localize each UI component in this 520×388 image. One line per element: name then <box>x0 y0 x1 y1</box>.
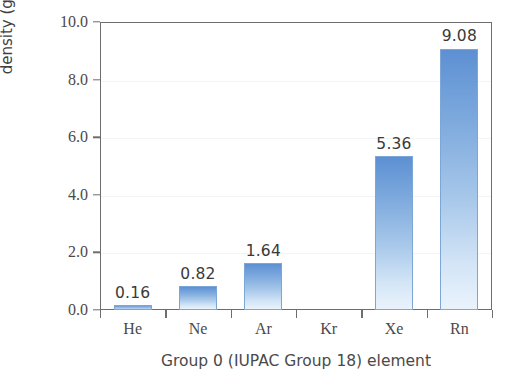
y-tick-label-10.0: 10.0 <box>60 13 88 31</box>
x-tick-label-he: He <box>123 320 142 338</box>
y-tick-label-0.0: 0.0 <box>68 301 88 319</box>
y-tick-mark-2.0 <box>93 252 100 253</box>
y-tick-label-8.0: 8.0 <box>68 71 88 89</box>
value-label-rn: 9.08 <box>427 27 492 45</box>
bar-ne[interactable] <box>179 286 217 310</box>
value-label-ne: 0.82 <box>165 265 230 283</box>
bar-xe[interactable] <box>375 156 413 310</box>
x-tick-mark-3 <box>296 310 297 318</box>
x-tick-mark-1 <box>165 310 166 318</box>
bar-ar[interactable] <box>244 263 282 310</box>
y-axis-title-base: density (g/dm <box>0 0 16 74</box>
x-tick-mark-2 <box>231 310 232 318</box>
x-tick-label-rn: Rn <box>450 320 469 338</box>
x-tick-label-ne: Ne <box>189 320 208 338</box>
y-tick-label-2.0: 2.0 <box>68 243 88 261</box>
y-tick-mark-8.0 <box>93 79 100 80</box>
value-label-ar: 1.64 <box>231 242 296 260</box>
y-tick-mark-4.0 <box>93 194 100 195</box>
x-tick-mark-4 <box>361 310 362 318</box>
x-axis-title: Group 0 (IUPAC Group 18) element <box>100 352 492 370</box>
x-tick-label-ar: Ar <box>255 320 272 338</box>
value-label-xe: 5.36 <box>361 135 426 153</box>
y-tick-mark-0.0 <box>93 309 100 310</box>
bar-rn[interactable] <box>440 49 478 311</box>
y-tick-label-4.0: 4.0 <box>68 186 88 204</box>
y-axis-title: density (g/dm3) <box>0 0 16 166</box>
x-tick-label-xe: Xe <box>385 320 404 338</box>
x-tick-mark-0 <box>100 310 101 318</box>
y-tick-mark-6.0 <box>93 136 100 137</box>
x-tick-mark-5 <box>427 310 428 318</box>
y-tick-label-6.0: 6.0 <box>68 128 88 146</box>
x-tick-label-kr: Kr <box>320 320 337 338</box>
value-label-he: 0.16 <box>100 284 165 302</box>
density-bar-chart: 0.160.821.645.369.08 0.02.04.06.08.010.0… <box>0 0 520 388</box>
y-tick-mark-10.0 <box>93 21 100 22</box>
x-tick-mark-6 <box>492 310 493 318</box>
bar-he[interactable] <box>114 305 152 310</box>
bars-layer <box>100 22 492 310</box>
